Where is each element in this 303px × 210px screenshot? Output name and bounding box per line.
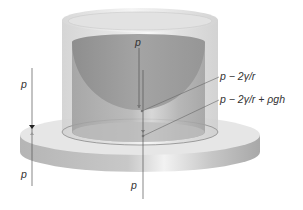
glass-rim (62, 8, 218, 32)
capillary-pressure-diagram: p p − 2γ/r p − 2γ/r + ρgh p p p (0, 0, 303, 210)
label-top-center-pressure: p (134, 36, 141, 48)
label-column-base-pressure: p − 2γ/r + ρgh (219, 93, 285, 105)
label-bottom-center-pressure: p (130, 179, 137, 191)
label-left-lower-pressure: p (20, 168, 27, 180)
label-below-meniscus-pressure: p − 2γ/r (219, 70, 256, 82)
label-left-upper-pressure: p (20, 78, 27, 90)
liquid-column (72, 34, 205, 142)
